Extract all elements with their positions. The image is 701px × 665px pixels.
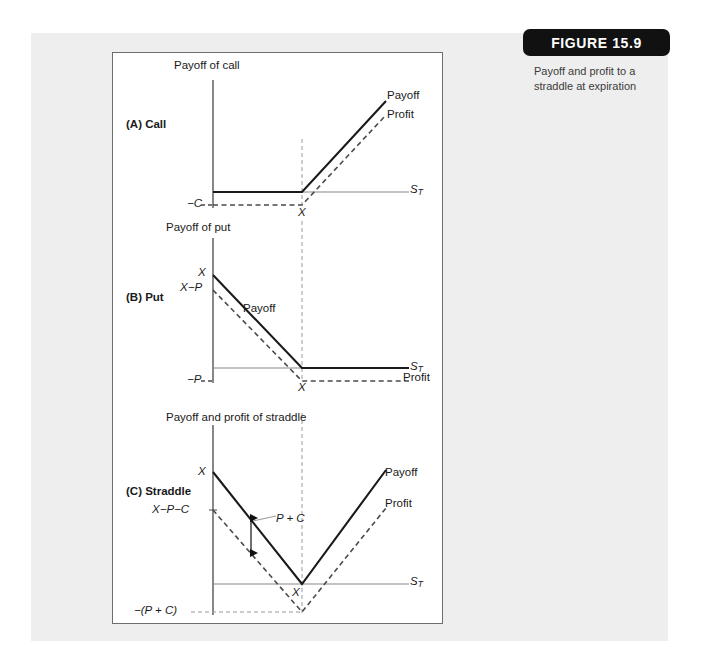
panel-c-tick-neg-p-plus-c: −(P + C)	[134, 604, 177, 616]
panel-c-gap-arrow-leader	[253, 516, 276, 521]
panel-c-series-label-profit: Profit	[385, 497, 412, 509]
panel-a-x-axis-label: ST	[410, 183, 423, 197]
panel-a-x-axis-label-main: S	[410, 183, 418, 195]
panel-c-tick-x: X	[198, 465, 206, 477]
panel-b-tick-neg-p: −P	[187, 373, 201, 385]
figure-number-badge: FIGURE 15.9	[523, 29, 670, 56]
panel-c-x-axis-label: ST	[410, 575, 423, 589]
panel-a-series-label-profit: Profit	[387, 108, 414, 120]
panel-a-axis-title: Payoff of call	[174, 59, 240, 71]
panel-b-tick-x-minus-p: X−P	[180, 281, 202, 293]
panel-b-tick-x: X	[198, 266, 206, 278]
panel-c-tick-x-minus-p-minus-c: X−P−C	[152, 503, 189, 515]
panel-b-axis-title: Payoff of put	[166, 221, 230, 233]
panel-a-series-label-payoff: Payoff	[387, 89, 419, 101]
panel-b-x-axis-label-main: S	[410, 360, 418, 372]
panel-c-x-axis-label-sub: T	[418, 579, 423, 589]
panel-a-strike-label: X	[298, 206, 306, 218]
panel-a-tick-neg-c: −C	[187, 197, 202, 209]
panel-c-axis-title: Payoff and profit of straddle	[166, 411, 306, 423]
panel-b-series-label-payoff: Payoff	[243, 302, 275, 314]
panel-label-c: (C) Straddle	[126, 485, 191, 497]
panel-b-x-axis-label-sub: T	[418, 364, 423, 374]
chart-frame	[112, 52, 443, 624]
panel-b-payoff-line	[213, 275, 409, 368]
panel-a-x-axis-label-sub: T	[418, 187, 423, 197]
panel-c-payoff-line	[213, 470, 386, 584]
figure-number-label: FIGURE 15.9	[551, 35, 642, 51]
figure-caption: Payoff and profit to a straddle at expir…	[534, 64, 666, 94]
option-payoff-diagram-svg	[113, 53, 442, 623]
panel-b-x-axis-label: ST	[410, 360, 423, 374]
panel-c-gap-annotation: P + C	[276, 512, 305, 524]
panel-c-series-label-payoff: Payoff	[385, 466, 417, 478]
panel-label-b: (B) Put	[126, 291, 164, 303]
panel-c-x-axis-label-main: S	[410, 575, 418, 587]
panel-a-payoff-line	[213, 101, 386, 192]
panel-label-a: (A) Call	[126, 118, 166, 130]
panel-c-strike-label: X	[292, 586, 300, 598]
panel-b-strike-label: X	[298, 381, 306, 393]
